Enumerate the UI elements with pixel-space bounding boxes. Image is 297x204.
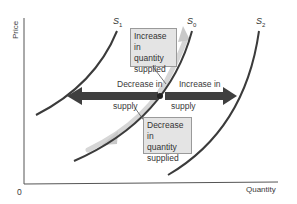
box-line: supplied bbox=[147, 153, 188, 164]
s0-label-sub: 0 bbox=[193, 22, 196, 28]
decrease-supply-label-1: Decrease in bbox=[117, 80, 162, 89]
movement-up-arrow-icon bbox=[178, 26, 190, 42]
supply-curve-s1 bbox=[36, 31, 117, 115]
initial-point bbox=[157, 93, 163, 99]
increase-supply-arrow-icon bbox=[223, 87, 237, 105]
increase-supply-arrow-shaft bbox=[165, 92, 225, 100]
s0-label: S0 bbox=[187, 17, 196, 28]
box-line: quantity bbox=[147, 142, 188, 153]
increase-supply-label-2: supply bbox=[171, 102, 196, 111]
box-line: supplied bbox=[134, 64, 173, 75]
x-axis-label: Quantity bbox=[246, 186, 276, 194]
s2-label-sub: 2 bbox=[262, 22, 265, 28]
origin-label: 0 bbox=[17, 188, 22, 197]
s2-label: S2 bbox=[256, 17, 265, 28]
box-line: Increase in bbox=[134, 31, 173, 53]
s1-label-sub: 1 bbox=[119, 22, 122, 28]
box-line: Decrease in bbox=[147, 120, 188, 142]
box-line: quantity bbox=[134, 53, 173, 64]
decrease-supply-arrow-shaft bbox=[80, 92, 158, 100]
decrease-supply-label-2: supply bbox=[113, 102, 138, 111]
x-axis bbox=[24, 182, 278, 184]
increase-supply-label-1: Increase in bbox=[179, 80, 221, 89]
increase-quantity-supplied-box: Increase in quantity supplied bbox=[130, 28, 177, 67]
decrease-quantity-supplied-box: Decrease in quantity supplied bbox=[143, 117, 192, 154]
y-axis-label: Price bbox=[11, 21, 20, 39]
s1-label: S1 bbox=[113, 17, 122, 28]
